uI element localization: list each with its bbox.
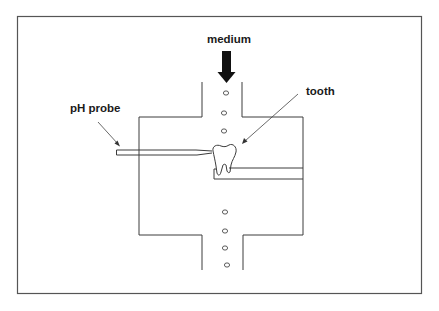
- bubble-icon: [222, 229, 227, 233]
- bubble-icon: [221, 111, 226, 115]
- bubble-icon: [222, 210, 227, 214]
- flow-chamber-diagram: medium pH probe tooth: [0, 0, 439, 311]
- medium-label: medium: [207, 33, 251, 45]
- ph-probe-label: pH probe: [70, 102, 120, 114]
- figure-frame: [18, 17, 422, 294]
- bubble-icon: [221, 129, 226, 133]
- bubble-icon: [222, 246, 227, 250]
- bubble-icon: [223, 91, 228, 95]
- bubble-icon: [224, 263, 229, 267]
- tooth-label: tooth: [306, 85, 335, 97]
